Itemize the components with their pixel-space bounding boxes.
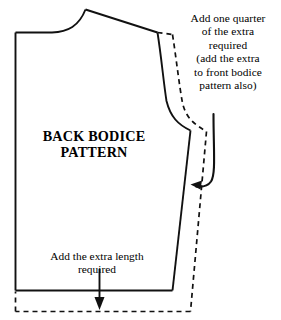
dashed-shoulder-extension	[158, 33, 173, 35]
neckline-curve	[16, 10, 86, 33]
bodice-pattern-diagram: Add one quarter of the extra required (a…	[0, 0, 281, 320]
curved-arrow-head	[191, 181, 203, 190]
pattern-title-label: BACK BODICE PATTERN	[14, 128, 174, 161]
annotation-length-note: Add the extra length required	[22, 250, 172, 277]
shoulder-seam-line	[86, 10, 158, 33]
dashed-side-seam	[191, 132, 207, 312]
side-seam-line	[173, 131, 191, 291]
straight-arrow-head	[95, 297, 105, 310]
annotation-shoulder-note: Add one quarter of the extra required (a…	[176, 12, 280, 93]
